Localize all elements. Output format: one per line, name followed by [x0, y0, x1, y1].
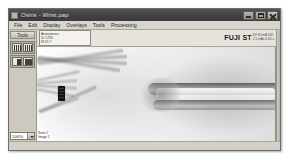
- window-level-tool-icon[interactable]: [12, 43, 22, 52]
- sidebar-spacer: [10, 69, 35, 132]
- menu-item-processing[interactable]: Processing: [108, 21, 140, 30]
- window-title: Osiris - Wrist.pap: [21, 12, 243, 18]
- patient-info-panel: Anonymous ID 1234 M 55 Y: [39, 30, 91, 46]
- chevron-down-icon[interactable]: [27, 133, 34, 139]
- tool-row-1: [10, 41, 35, 54]
- title-bar[interactable]: Osiris - Wrist.pap: [9, 9, 280, 21]
- status-bar: [9, 141, 280, 150]
- dicom-header: Anonymous ID 1234 M 55 Y FUJI ST KV 60 m…: [37, 30, 276, 47]
- contrast-tool-icon[interactable]: [12, 57, 22, 66]
- acquisition-parameters: KV 60 mA 200 2.5 mAs 0.06 s: [253, 34, 274, 41]
- radiopaque-marker: [58, 86, 65, 101]
- vendor-name: FUJI ST: [224, 34, 251, 41]
- maximize-icon[interactable]: [255, 11, 266, 20]
- tool-row-2: [10, 55, 35, 68]
- window-controls: [243, 11, 278, 20]
- window-body: Tools 100% Anonymous ID 1234: [9, 30, 280, 141]
- vendor-block: FUJI ST KV 60 mA 200 2.5 mAs 0.06 s: [224, 34, 274, 41]
- zoom-value: 100%: [11, 133, 27, 140]
- acquisition-mas: 2.5 mAs 0.06 s: [253, 38, 274, 42]
- menu-item-tools[interactable]: Tools: [90, 21, 108, 30]
- invert-tool-icon[interactable]: [23, 57, 33, 66]
- menu-item-overlays[interactable]: Overlays: [63, 21, 89, 30]
- viewport-column: Anonymous ID 1234 M 55 Y FUJI ST KV 60 m…: [37, 30, 276, 141]
- tool-sidebar: Tools 100%: [9, 30, 37, 141]
- minimize-icon[interactable]: [243, 11, 254, 20]
- zoom-tool-icon[interactable]: [23, 43, 33, 52]
- bone-carpals: [142, 78, 180, 112]
- sidebar-tab-tools[interactable]: Tools: [10, 31, 35, 39]
- application-window: Osiris - Wrist.pap File Edit Display Ove…: [8, 8, 281, 151]
- menu-item-file[interactable]: File: [11, 21, 25, 30]
- vertical-scrollbar[interactable]: [276, 30, 280, 141]
- menu-item-display[interactable]: Display: [40, 21, 63, 30]
- menu-bar: File Edit Display Overlays Tools Process…: [9, 21, 280, 30]
- zoom-select[interactable]: 100%: [10, 132, 35, 140]
- close-icon[interactable]: [267, 11, 278, 20]
- patient-demographics: M 55 Y: [41, 40, 89, 44]
- image-viewport[interactable]: Serie 1 Image 1: [37, 47, 276, 141]
- image-overlay-series: Serie 1 Image 1: [38, 132, 50, 140]
- menu-item-edit[interactable]: Edit: [25, 21, 40, 30]
- app-icon: [11, 12, 18, 19]
- overlay-image-label: Image 1: [38, 136, 50, 140]
